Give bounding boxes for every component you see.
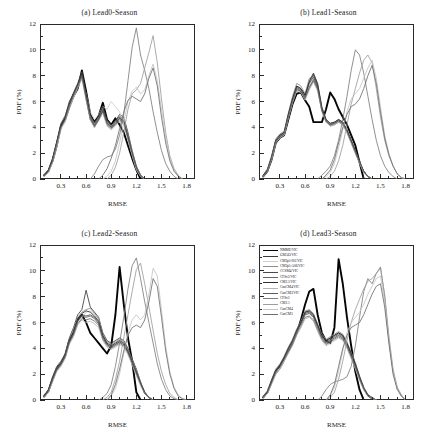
x-tick-label: 0.6 (82, 403, 91, 411)
y-tick-mark (40, 270, 45, 271)
x-axis-label-c: RMSE (40, 421, 195, 429)
y-minor-tick (40, 257, 43, 258)
x-tick-mark (279, 174, 280, 179)
x-tick-label: 0.9 (326, 403, 335, 411)
y-minor-tick (259, 140, 262, 141)
y-tick-mark (259, 153, 264, 154)
x-minor-tick (102, 397, 103, 400)
x-minor-tick (346, 176, 347, 179)
y-tick-label: 2 (252, 149, 256, 157)
y-tick-mark (259, 75, 264, 76)
y-minor-tick (259, 335, 262, 336)
legend-line-swatch (263, 309, 278, 310)
y-minor-tick (259, 114, 262, 115)
y-tick-label: 8 (252, 72, 256, 80)
x-minor-tick (397, 176, 398, 179)
x-tick-mark (136, 395, 137, 400)
legend-line-swatch (263, 314, 278, 315)
x-axis-label-d: RMSE (259, 421, 414, 429)
y-minor-tick (40, 309, 43, 310)
curve-group-a (40, 24, 195, 179)
curve-gmao-vic (44, 290, 153, 400)
x-minor-tick (363, 176, 364, 179)
x-tick-label: 1.2 (351, 403, 360, 411)
x-tick-mark (86, 174, 87, 179)
y-minor-tick (259, 62, 262, 63)
x-tick-mark (330, 174, 331, 179)
x-minor-tick (313, 397, 314, 400)
y-tick-mark (40, 179, 45, 180)
x-tick-mark (111, 395, 112, 400)
y-minor-tick (259, 283, 262, 284)
curve-cm2-1 (103, 263, 178, 400)
y-minor-tick (259, 309, 262, 310)
y-tick-label: 2 (252, 370, 256, 378)
x-minor-tick (119, 176, 120, 179)
x-tick-label: 0.9 (107, 403, 116, 411)
y-tick-label: 6 (252, 98, 256, 106)
x-tick-mark (186, 174, 187, 179)
x-minor-tick (169, 176, 170, 179)
y-tick-label: 8 (33, 72, 37, 80)
curve-group-c (40, 245, 195, 400)
x-minor-tick (313, 176, 314, 179)
curve-cfsv2-vic (263, 81, 372, 179)
x-tick-mark (161, 395, 162, 400)
x-minor-tick (346, 397, 347, 400)
x-minor-tick (153, 397, 154, 400)
x-tick-mark (380, 174, 381, 179)
panel-lead1-season: (b) Lead1-Season PDF (%) RMSE 0246810120… (219, 0, 438, 221)
x-tick-mark (405, 395, 406, 400)
x-minor-tick (321, 176, 322, 179)
y-axis-label-a: PDF (%) (15, 89, 23, 114)
y-tick-mark (40, 245, 45, 246)
x-tick-label: 1.2 (132, 182, 141, 190)
x-tick-label: 1.5 (376, 182, 385, 190)
y-minor-tick (40, 88, 43, 89)
y-minor-tick (259, 88, 262, 89)
y-tick-mark (40, 374, 45, 375)
x-minor-tick (288, 397, 289, 400)
y-tick-mark (259, 101, 264, 102)
x-minor-tick (296, 176, 297, 179)
y-tick-label: 4 (33, 344, 37, 352)
x-tick-label: 0.3 (276, 182, 285, 190)
x-tick-label: 0.3 (57, 403, 66, 411)
y-tick-label: 0 (252, 175, 256, 183)
curve-group-b (259, 24, 414, 179)
curve-cancm3-vic (263, 80, 372, 179)
x-tick-label: 1.5 (376, 403, 385, 411)
curve-cfsv2 (318, 50, 398, 179)
y-tick-label: 12 (29, 241, 36, 249)
legend-line-swatch (263, 250, 278, 251)
x-tick-mark (330, 395, 331, 400)
panel-lead2-season: (c) Lead2-Season PDF (%) RMSE 0246810120… (0, 221, 219, 442)
legend-line-swatch (263, 272, 278, 273)
y-tick-label: 10 (248, 46, 255, 54)
x-minor-tick (338, 176, 339, 179)
x-minor-tick (144, 176, 145, 179)
y-tick-label: 2 (33, 370, 37, 378)
panel-lead0-season: (a) Lead0-Season PDF (%) RMSE 0246810120… (0, 0, 219, 221)
y-tick-mark (259, 245, 264, 246)
x-tick-mark (380, 395, 381, 400)
y-minor-tick (40, 36, 43, 37)
x-tick-mark (355, 174, 356, 179)
legend-line-swatch (263, 282, 278, 283)
x-minor-tick (178, 397, 179, 400)
y-tick-mark (259, 49, 264, 50)
x-tick-label: 1.2 (351, 182, 360, 190)
y-tick-mark (40, 348, 45, 349)
x-minor-tick (397, 397, 398, 400)
curve-cm2p5-i01-vic (44, 78, 145, 179)
y-tick-mark (40, 49, 45, 50)
y-tick-label: 4 (33, 123, 37, 131)
x-tick-mark (60, 395, 61, 400)
y-minor-tick (259, 257, 262, 258)
y-axis-label-d: PDF (%) (234, 310, 242, 335)
x-tick-label: 1.8 (182, 182, 191, 190)
y-minor-tick (259, 166, 262, 167)
y-tick-mark (40, 400, 45, 401)
legend-item: CanCM3 (263, 312, 304, 317)
x-minor-tick (169, 397, 170, 400)
